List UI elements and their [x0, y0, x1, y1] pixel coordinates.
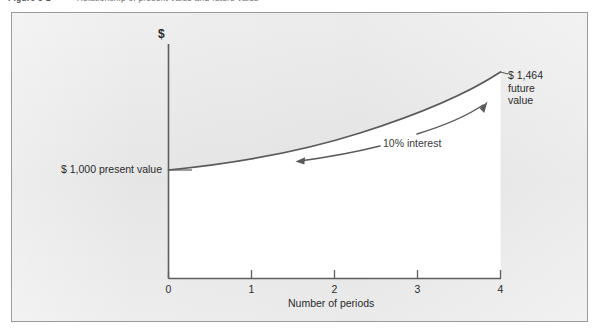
future-value-amount: $ 1,464 [508, 69, 543, 82]
x-axis-title: Number of periods [288, 297, 374, 310]
future-value-leader-line [501, 72, 509, 74]
x-tick-label-1: 1 [242, 283, 262, 295]
future-value-line-3: value [508, 94, 543, 107]
future-value-line-2: future [508, 82, 543, 95]
x-tick-label-2: 2 [325, 283, 345, 295]
x-tick-label-0: 0 [159, 283, 179, 295]
interest-rate-label: 10% interest [383, 137, 441, 150]
present-value-label: $ 1,000 present value [61, 163, 162, 176]
x-tick-label-3: 3 [408, 283, 428, 295]
plot-area-background [169, 73, 501, 279]
y-axis-title: $ [158, 28, 165, 41]
x-tick-label-4: 4 [491, 283, 511, 295]
future-value-label: $ 1,464 future value [508, 69, 543, 107]
